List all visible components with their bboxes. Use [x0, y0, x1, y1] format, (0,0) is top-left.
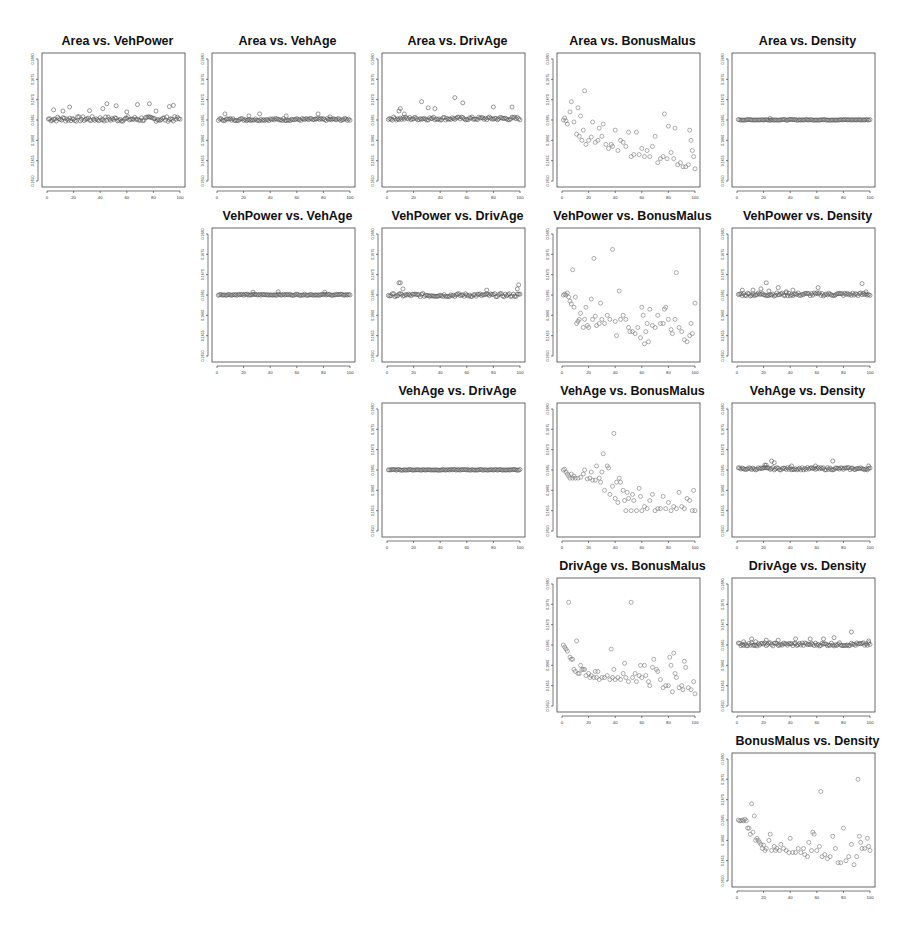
x-tick-label: 60 — [814, 895, 819, 900]
data-point — [621, 671, 625, 675]
data-point — [847, 855, 851, 859]
data-point — [576, 476, 580, 480]
y-tick-label: 0.1670 — [546, 269, 550, 280]
plot-panel: BonusMalus vs. Density0.16500.16550.1660… — [720, 734, 895, 909]
x-tick-label: 40 — [438, 545, 443, 550]
x-tick-label: 80 — [321, 195, 326, 200]
data-point — [621, 488, 625, 492]
data-point — [668, 655, 672, 659]
data-point — [680, 684, 684, 688]
y-tick-label: 0.1650 — [721, 876, 725, 887]
data-point — [597, 678, 601, 682]
y-tick-label: 0.1670 — [546, 444, 550, 455]
data-point — [688, 128, 692, 132]
plot-panel: VehAge vs. DrivAge0.16500.16550.16600.16… — [370, 384, 545, 559]
data-point — [627, 496, 631, 500]
data-point — [666, 124, 670, 128]
data-point — [857, 834, 861, 838]
y-tick-label: 0.1655 — [371, 505, 375, 516]
data-point — [689, 138, 693, 142]
data-point — [648, 499, 652, 503]
data-point — [678, 161, 682, 165]
data-point — [638, 663, 642, 667]
data-point — [685, 340, 689, 344]
data-point — [855, 855, 859, 859]
data-point — [575, 639, 579, 643]
data-point — [865, 836, 869, 840]
data-point — [567, 295, 571, 299]
data-point — [680, 505, 684, 509]
y-tick-label: 0.1665 — [721, 465, 725, 476]
y-tick-label: 0.1660 — [371, 310, 375, 321]
y-tick-label: 0.1650 — [31, 176, 35, 187]
data-point — [627, 326, 631, 330]
y-tick-label: 0.1680 — [31, 54, 35, 65]
x-tick-label: 20 — [241, 370, 246, 375]
data-point — [682, 507, 686, 511]
data-point — [612, 431, 616, 435]
data-point — [794, 637, 798, 641]
data-point — [389, 117, 393, 121]
data-point — [673, 126, 677, 130]
data-point — [637, 674, 641, 678]
data-point — [597, 476, 601, 480]
x-tick-label: 20 — [411, 370, 416, 375]
y-tick-label: 0.1665 — [31, 115, 35, 126]
data-point — [759, 287, 763, 291]
data-point — [433, 107, 437, 111]
data-point — [684, 665, 688, 669]
data-point — [589, 470, 593, 474]
data-point — [453, 96, 457, 100]
y-tick-label: 0.1655 — [721, 855, 725, 866]
x-tick-label: 60 — [639, 545, 644, 550]
x-tick-label: 20 — [761, 895, 766, 900]
data-point — [767, 289, 771, 293]
x-tick-label: 60 — [294, 370, 299, 375]
data-point — [782, 846, 786, 850]
x-tick-label: 40 — [788, 370, 793, 375]
data-point — [820, 855, 824, 859]
data-point — [572, 305, 576, 309]
x-tick-label: 40 — [613, 195, 618, 200]
data-point — [825, 857, 829, 861]
y-tick-label: 0.1675 — [371, 74, 375, 85]
y-tick-label: 0.1670 — [371, 444, 375, 455]
y-tick-label: 0.1650 — [721, 176, 725, 187]
y-tick-label: 0.1650 — [546, 526, 550, 537]
y-tick-label: 0.1655 — [201, 330, 205, 341]
data-point — [583, 317, 587, 321]
y-tick-label: 0.1680 — [201, 229, 205, 240]
data-point — [640, 676, 644, 680]
data-point — [815, 849, 819, 853]
scatter-plot: 0.16500.16550.16600.16650.16700.16750.16… — [720, 384, 895, 559]
data-point — [581, 472, 585, 476]
x-tick-label: 40 — [613, 370, 618, 375]
plot-panel: Area vs. DrivAge0.16500.16550.16600.1665… — [370, 34, 545, 209]
data-point — [672, 505, 676, 509]
x-tick-label: 80 — [666, 545, 671, 550]
data-point — [841, 826, 845, 830]
data-point — [616, 149, 620, 153]
x-tick-label: 80 — [321, 370, 326, 375]
y-tick-label: 0.1660 — [201, 310, 205, 321]
data-point — [608, 317, 612, 321]
data-point — [661, 494, 665, 498]
data-point — [611, 247, 615, 251]
data-point — [860, 282, 864, 286]
data-point — [670, 690, 674, 694]
plot-panel: VehPower vs. DrivAge0.16500.16550.16600.… — [370, 209, 545, 384]
data-point — [589, 297, 593, 301]
y-tick-label: 0.1650 — [546, 701, 550, 712]
scatter-plot: 0.16500.16550.16600.16650.16700.16750.16… — [370, 34, 545, 209]
data-point — [677, 686, 681, 690]
data-point — [420, 100, 424, 104]
y-tick-label: 0.1680 — [546, 579, 550, 590]
data-point — [672, 651, 676, 655]
data-point — [831, 459, 835, 463]
x-tick-label: 0 — [736, 895, 739, 900]
x-tick-label: 0 — [736, 370, 739, 375]
data-point — [491, 105, 495, 109]
x-tick-label: 100 — [692, 370, 700, 375]
scatter-plot: 0.16500.16550.16600.16650.16700.16750.16… — [720, 734, 895, 909]
data-point — [579, 311, 583, 315]
